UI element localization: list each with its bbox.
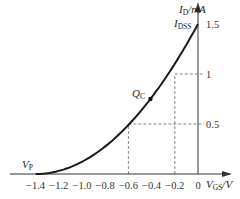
y-tick-label: 1.5 xyxy=(206,19,219,30)
vp-label: VP xyxy=(22,158,33,172)
x-tick-label: −0.2 xyxy=(165,180,184,191)
axes xyxy=(10,2,232,177)
x-tick-label: −0.8 xyxy=(96,180,115,191)
x-axis-label: VGS/V xyxy=(206,178,233,192)
x-tick-label: −1.4 xyxy=(26,180,46,191)
q-point-label: QC xyxy=(132,87,145,101)
transfer-curve xyxy=(36,24,198,174)
y-tick-label: 1 xyxy=(206,69,211,80)
x-tick-label: −0.6 xyxy=(119,180,138,191)
q-point-marker xyxy=(148,97,152,101)
x-tick-labels: −1.4−1.2−1.0−0.8−0.6−0.4−0.20 xyxy=(26,180,201,191)
y-axis-label: ID/mA xyxy=(178,3,206,17)
x-tick-label: 0 xyxy=(195,180,200,191)
transfer-characteristic-chart: −1.4−1.2−1.0−0.8−0.6−0.4−0.20 0.511.5 ID… xyxy=(0,0,240,199)
x-tick-label: −1.0 xyxy=(72,180,91,191)
x-axis-arrow-icon xyxy=(222,171,232,177)
y-tick-label: 0.5 xyxy=(206,119,219,130)
idss-label: IDSS xyxy=(173,17,191,31)
x-tick-label: −1.2 xyxy=(49,180,68,191)
x-tick-label: −0.4 xyxy=(142,180,162,191)
y-tick-labels: 0.511.5 xyxy=(206,19,219,130)
